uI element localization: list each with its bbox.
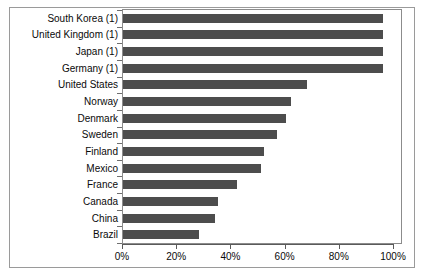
bar-row (123, 193, 402, 210)
x-axis-tick (339, 244, 340, 249)
bar (123, 214, 215, 223)
bar (123, 47, 383, 56)
y-axis-tick (117, 176, 122, 177)
category-label: Finland (85, 146, 118, 157)
category-label-row: Brazil (10, 227, 118, 244)
y-axis-tick (117, 77, 122, 78)
category-label: Denmark (77, 113, 118, 124)
bar-row (123, 60, 402, 77)
category-label: Japan (1) (76, 46, 118, 57)
category-axis-labels: South Korea (1) United Kingdom (1) Japan… (10, 10, 118, 243)
bar-row (123, 227, 402, 244)
category-label: United Kingdom (1) (32, 29, 118, 40)
bar-row (123, 27, 402, 44)
y-axis-tick (117, 127, 122, 128)
category-label-row: United States (10, 77, 118, 94)
chart-frame: South Korea (1) United Kingdom (1) Japan… (9, 7, 415, 268)
category-label-row: China (10, 210, 118, 227)
category-label-row: Denmark (10, 110, 118, 127)
bar-row (123, 177, 402, 194)
y-axis-tick (117, 10, 122, 11)
category-label-row: Canada (10, 193, 118, 210)
x-axis-tick-label: 80% (329, 251, 349, 262)
bar (123, 114, 286, 123)
x-axis-tick-label: 40% (220, 251, 240, 262)
category-label: Germany (1) (62, 63, 118, 74)
x-axis-line (122, 244, 394, 245)
x-axis-tick-label: 20% (166, 251, 186, 262)
bar (123, 197, 218, 206)
category-label-row: Sweden (10, 127, 118, 144)
y-axis-tick (117, 60, 122, 61)
category-label: Sweden (82, 129, 118, 140)
y-axis-tick (117, 143, 122, 144)
y-axis-tick (117, 110, 122, 111)
category-label-row: France (10, 177, 118, 194)
x-axis-tick-label: 60% (275, 251, 295, 262)
category-label: France (87, 179, 118, 190)
x-axis-tick-label: 0% (115, 251, 129, 262)
y-axis-tick (117, 27, 122, 28)
bar-row (123, 93, 402, 110)
y-axis-tick (117, 93, 122, 94)
y-axis-tick (117, 160, 122, 161)
category-label: Canada (83, 196, 118, 207)
category-label-row: Finland (10, 143, 118, 160)
y-axis-tick (117, 226, 122, 227)
bar-row (123, 110, 402, 127)
bar-row (123, 43, 402, 60)
x-axis-tick (230, 244, 231, 249)
bar-row (123, 77, 402, 94)
bar (123, 164, 261, 173)
bar (123, 97, 291, 106)
x-axis-tick (285, 244, 286, 249)
category-label: China (92, 213, 118, 224)
category-label: Mexico (86, 163, 118, 174)
bar (123, 30, 383, 39)
bar-row (123, 127, 402, 144)
bar (123, 180, 237, 189)
category-label: United States (58, 79, 118, 90)
bar (123, 64, 383, 73)
category-label-row: Japan (1) (10, 43, 118, 60)
x-axis-tick-label: 100% (380, 251, 406, 262)
category-label: Norway (84, 96, 118, 107)
x-axis-tick (176, 244, 177, 249)
bar (123, 130, 277, 139)
x-axis-tick (393, 244, 394, 249)
bar (123, 147, 264, 156)
y-axis-tick (117, 43, 122, 44)
category-label-row: South Korea (1) (10, 10, 118, 27)
category-label: Brazil (93, 229, 118, 240)
bar (123, 80, 307, 89)
category-label-row: United Kingdom (1) (10, 27, 118, 44)
y-axis-tick (117, 193, 122, 194)
bar (123, 14, 383, 23)
category-label-row: Germany (1) (10, 60, 118, 77)
bar (123, 230, 199, 239)
x-axis-tick (122, 244, 123, 249)
y-axis-tick (117, 210, 122, 211)
category-label: South Korea (1) (47, 13, 118, 24)
category-label-row: Mexico (10, 160, 118, 177)
bar-series (123, 10, 402, 243)
bar-row (123, 160, 402, 177)
bar-row (123, 143, 402, 160)
category-label-row: Norway (10, 93, 118, 110)
bar-row (123, 210, 402, 227)
bar-row (123, 10, 402, 27)
